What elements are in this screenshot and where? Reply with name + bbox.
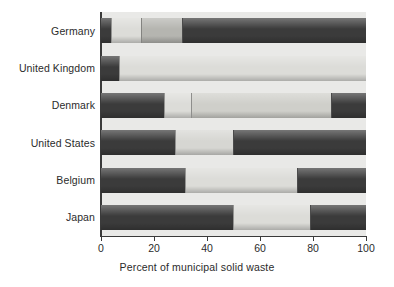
bar-segment xyxy=(101,18,111,43)
bar-row xyxy=(101,205,366,230)
x-tick-mark xyxy=(313,236,314,241)
bar-segment xyxy=(101,56,119,81)
x-tick-label: 60 xyxy=(240,242,280,254)
bar-japan xyxy=(101,205,366,230)
bar-row xyxy=(101,18,366,43)
bar-segment xyxy=(297,168,366,193)
y-tick-label: United Kingdom xyxy=(0,62,95,74)
bar-denmark xyxy=(101,93,366,118)
bar-segment xyxy=(141,18,181,43)
y-tick-label: Japan xyxy=(0,211,95,223)
bar-segment xyxy=(111,18,141,43)
bar-row xyxy=(101,56,366,81)
bar-segment xyxy=(191,93,331,118)
x-tick-label: 100 xyxy=(346,242,386,254)
y-tick-label: United States xyxy=(0,137,95,149)
plot-area xyxy=(101,12,366,236)
bar-row xyxy=(101,130,366,155)
bar-segment xyxy=(185,168,296,193)
bar-segment xyxy=(233,130,366,155)
x-axis-line xyxy=(100,236,367,237)
bar-segment xyxy=(310,205,366,230)
bar-segment xyxy=(101,93,164,118)
bar-row xyxy=(101,93,366,118)
x-tick-label: 80 xyxy=(293,242,333,254)
x-tick-label: 20 xyxy=(134,242,174,254)
x-tick-mark xyxy=(101,236,102,241)
x-tick-mark xyxy=(366,236,367,241)
bar-united-states xyxy=(101,130,366,155)
x-tick-label: 0 xyxy=(81,242,121,254)
bar-segment xyxy=(101,130,175,155)
bar-segment xyxy=(233,205,310,230)
y-tick-label: Germany xyxy=(0,25,95,37)
stacked-bar-chart: GermanyUnited KingdomDenmarkUnited State… xyxy=(0,0,394,287)
bar-segment xyxy=(101,205,233,230)
bar-segment xyxy=(101,168,185,193)
bar-segment xyxy=(182,18,366,43)
y-axis-line xyxy=(100,12,102,237)
x-tick-mark xyxy=(260,236,261,241)
bar-united-kingdom xyxy=(101,56,366,81)
x-tick-mark xyxy=(207,236,208,241)
x-tick-label: 40 xyxy=(187,242,227,254)
x-axis-title: Percent of municipal solid waste xyxy=(0,261,394,273)
bar-germany xyxy=(101,18,366,43)
y-tick-label: Denmark xyxy=(0,99,95,111)
bar-belgium xyxy=(101,168,366,193)
bar-segment xyxy=(331,93,366,118)
bar-segment xyxy=(175,130,234,155)
y-tick-label: Belgium xyxy=(0,174,95,186)
bar-segment xyxy=(119,56,366,81)
bar-segment xyxy=(164,93,191,118)
x-tick-mark xyxy=(154,236,155,241)
bar-row xyxy=(101,168,366,193)
